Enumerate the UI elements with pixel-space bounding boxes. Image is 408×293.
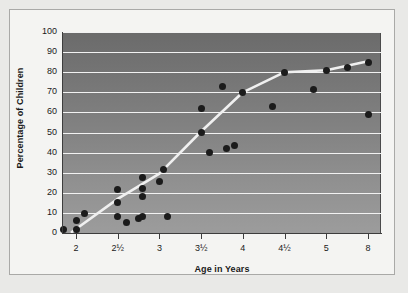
data-point xyxy=(323,67,330,74)
x-axis-line xyxy=(63,233,382,234)
scatter-chart: Percentage of Children 01020304050607080… xyxy=(0,0,408,293)
data-point xyxy=(281,69,288,76)
x-tick-mark xyxy=(243,234,244,239)
data-point xyxy=(269,103,276,110)
y-axis-line xyxy=(62,32,63,234)
y-tick-label: 90 xyxy=(33,46,57,56)
plot-area xyxy=(63,32,381,233)
y-tick-label: 10 xyxy=(33,207,57,217)
y-tick-label: 60 xyxy=(33,106,57,116)
data-point xyxy=(198,105,205,112)
y-tick-label: 0 xyxy=(33,227,57,237)
trend-line xyxy=(63,32,381,233)
y-tick-label: 70 xyxy=(33,86,57,96)
data-point xyxy=(73,217,80,224)
data-point xyxy=(198,129,205,136)
x-axis-title: Age in Years xyxy=(63,264,381,274)
x-tick-mark xyxy=(285,234,286,239)
x-tick-mark xyxy=(159,234,160,239)
data-point xyxy=(310,86,317,93)
x-tick-label: 2 xyxy=(56,243,96,253)
x-tick-mark xyxy=(201,234,202,239)
data-point xyxy=(231,142,238,149)
y-tick-label: 40 xyxy=(33,147,57,157)
x-tick-label: 4½ xyxy=(265,243,305,253)
x-tick-label: 3½ xyxy=(181,243,221,253)
x-tick-mark xyxy=(118,234,119,239)
data-point xyxy=(223,145,230,152)
data-point xyxy=(219,83,226,90)
x-tick-label: 4 xyxy=(223,243,263,253)
x-tick-label: 5 xyxy=(306,243,346,253)
y-axis-title: Percentage of Children xyxy=(15,38,25,198)
y-tick-label: 20 xyxy=(33,187,57,197)
x-tick-mark xyxy=(76,234,77,239)
y-tick-label: 30 xyxy=(33,167,57,177)
y-tick-label: 80 xyxy=(33,66,57,76)
data-point xyxy=(344,64,351,71)
x-tick-label: 8 xyxy=(348,243,388,253)
x-tick-label: 3 xyxy=(139,243,179,253)
data-point xyxy=(365,59,372,66)
data-point xyxy=(123,219,130,226)
y-tick-label: 100 xyxy=(33,26,57,36)
y-tick-label: 50 xyxy=(33,127,57,137)
data-point xyxy=(365,111,372,118)
x-tick-label: 2½ xyxy=(98,243,138,253)
x-tick-mark xyxy=(368,234,369,239)
x-tick-mark xyxy=(326,234,327,239)
